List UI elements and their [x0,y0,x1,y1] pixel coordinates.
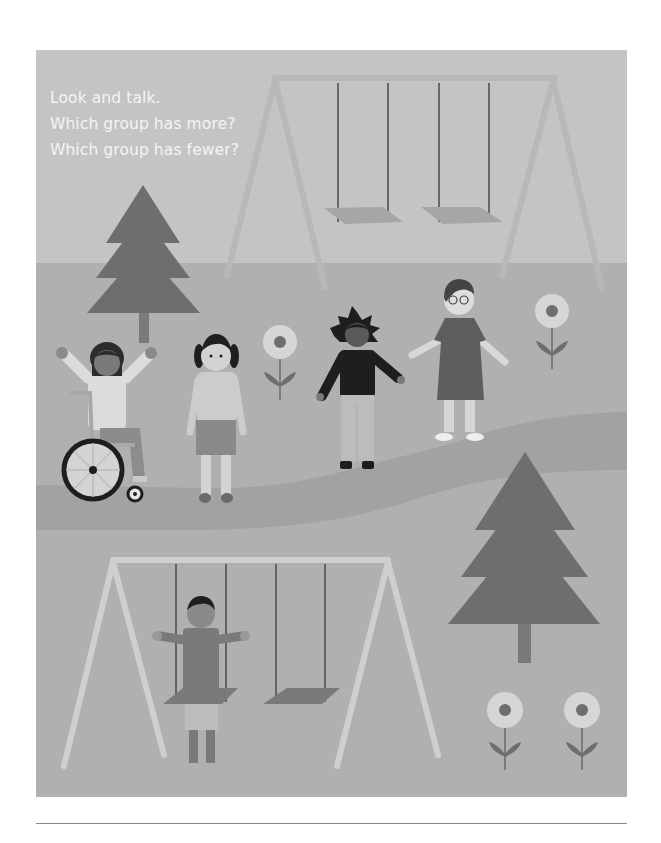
instruction-line-2: Which group has more? [50,111,239,137]
footer-divider [36,823,627,824]
instruction-text: Look and talk. Which group has more? Whi… [50,85,239,163]
instruction-line-1: Look and talk. [50,85,239,111]
instruction-line-3: Which group has fewer? [50,137,239,163]
